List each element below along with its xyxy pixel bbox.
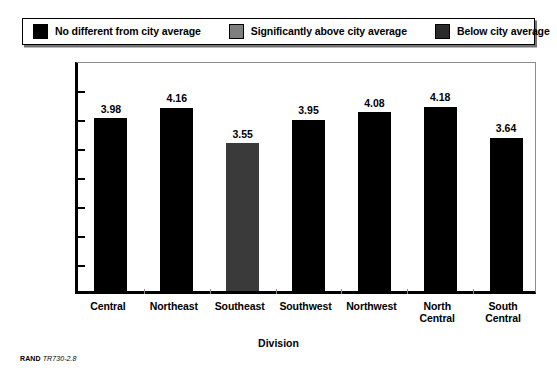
chart-legend: No different from city average Significa… [22, 18, 535, 45]
legend-item-below-average: Below city average [435, 19, 550, 44]
bar-rect[interactable] [292, 120, 325, 291]
source-brand: RAND [20, 355, 41, 362]
legend-swatch-black-icon [33, 24, 48, 39]
x-tick-label-line: Central [75, 300, 141, 312]
x-tick-label: Central [75, 300, 141, 312]
bars-container: 3.984.163.553.954.084.183.64 [78, 63, 535, 291]
x-tick-label: Northeast [141, 300, 207, 312]
bar-rect[interactable] [226, 143, 259, 291]
x-tick-mark [407, 289, 408, 294]
bar-rect[interactable] [160, 108, 193, 291]
bar-group[interactable]: 3.98 [94, 104, 127, 291]
x-axis-title: Division [0, 337, 557, 349]
bar-value-label: 3.95 [298, 105, 318, 116]
legend-item-significantly-above: Significantly above city average [229, 19, 407, 44]
bar-rect[interactable] [490, 138, 523, 291]
x-tick-label: SouthCentral [470, 300, 536, 324]
legend-swatch-gray-icon [229, 24, 244, 39]
x-tick-label: NorthCentral [404, 300, 470, 324]
legend-swatch-darkgray-icon [435, 24, 450, 39]
x-tick-label-line: Central [470, 312, 536, 324]
y-tick-mark [78, 149, 85, 151]
x-tick-label: Southeast [207, 300, 273, 312]
bar-rect[interactable] [358, 112, 391, 291]
bar-group[interactable]: 4.18 [424, 92, 457, 291]
bar-value-label: 3.64 [496, 123, 516, 134]
source-id: TR730-2.8 [43, 355, 77, 362]
y-tick-mark [78, 265, 85, 267]
x-tick-label-line: Northeast [141, 300, 207, 312]
x-tick-label-line: North [404, 300, 470, 312]
x-tick-mark [276, 289, 277, 294]
x-tick-mark [210, 289, 211, 294]
x-tick-label-line: South [470, 300, 536, 312]
legend-item-no-different: No different from city average [33, 19, 201, 44]
x-tick-label-line: Northwest [338, 300, 404, 312]
y-tick-mark [78, 178, 85, 180]
y-tick-mark [78, 120, 85, 122]
bar-value-label: 3.98 [101, 104, 121, 115]
y-tick-mark [78, 207, 85, 209]
legend-label-below-average: Below city average [457, 26, 550, 37]
x-tick-label: Northwest [338, 300, 404, 312]
bar-value-label: 4.18 [430, 92, 450, 103]
bar-group[interactable]: 3.95 [292, 105, 325, 291]
bar-group[interactable]: 4.08 [358, 98, 391, 291]
bar-value-label: 4.16 [167, 93, 187, 104]
bar-group[interactable]: 4.16 [160, 93, 193, 291]
x-tick-mark [473, 289, 474, 294]
y-tick-mark [78, 91, 85, 93]
x-tick-mark [144, 289, 145, 294]
bar-rect[interactable] [424, 107, 457, 291]
bar-rect[interactable] [94, 118, 127, 291]
chart-plot-area: 3.984.163.553.954.084.183.64 [75, 62, 536, 294]
bar-group[interactable]: 3.64 [490, 123, 523, 291]
x-tick-label: Southwest [273, 300, 339, 312]
legend-label-no-different: No different from city average [55, 26, 201, 37]
figure-source: RANDTR730-2.8 [20, 355, 77, 362]
bar-value-label: 4.08 [364, 98, 384, 109]
x-tick-mark [341, 289, 342, 294]
legend-label-significantly-above: Significantly above city average [251, 26, 407, 37]
y-tick-mark [78, 236, 85, 238]
x-tick-label-line: Southwest [273, 300, 339, 312]
x-tick-label-line: Southeast [207, 300, 273, 312]
x-tick-label-line: Central [404, 312, 470, 324]
bar-value-label: 3.55 [232, 129, 252, 140]
bar-group[interactable]: 3.55 [226, 129, 259, 291]
